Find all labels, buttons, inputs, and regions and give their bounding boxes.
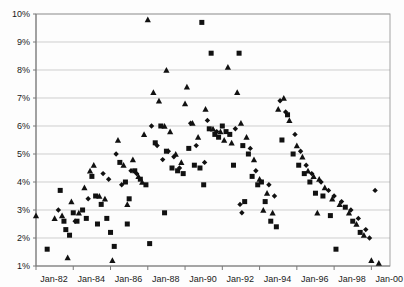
marker-square (104, 216, 109, 221)
marker-square (199, 20, 204, 25)
y-axis-label-8: 8% (17, 65, 30, 75)
x-axis-label-1990: Jan-90 (189, 274, 217, 284)
marker-square (170, 166, 175, 171)
marker-square (117, 160, 122, 165)
marker-square (263, 199, 268, 204)
marker-square (123, 180, 128, 185)
marker-square (242, 199, 247, 204)
marker-square (274, 224, 279, 229)
marker-square (186, 146, 191, 151)
y-axis-label-9: 9% (17, 37, 30, 47)
marker-square (45, 247, 50, 252)
y-axis-label-7: 7% (17, 93, 30, 103)
marker-square (240, 143, 245, 148)
marker-square (147, 241, 152, 246)
y-axis-label-2: 2% (17, 233, 30, 243)
marker-square (350, 219, 355, 224)
marker-square (95, 222, 100, 227)
marker-square (63, 227, 68, 232)
marker-square (89, 174, 94, 179)
chart-canvas: 10%9%8%7%6%5%4%3%2%1% Jan-82Jan-84Jan-86… (0, 0, 404, 287)
marker-square (197, 166, 202, 171)
marker-square (125, 222, 130, 227)
marker-square (231, 163, 236, 168)
marker-square (80, 208, 85, 213)
marker-square (201, 182, 206, 187)
marker-square (250, 174, 255, 179)
marker-square (71, 210, 76, 215)
y-axis-label-5: 5% (17, 149, 30, 159)
x-axis-label-1998: Jan-98 (338, 274, 366, 284)
marker-square (84, 216, 89, 221)
marker-square (127, 196, 132, 201)
y-axis-label-6: 6% (17, 121, 30, 131)
x-axis-label-1996: Jan-96 (301, 274, 329, 284)
marker-square (328, 213, 333, 218)
marker-square (237, 51, 242, 56)
marker-square (192, 163, 197, 168)
x-axis-label-1994: Jan-94 (264, 274, 292, 284)
chart-background (0, 0, 404, 287)
marker-square (291, 152, 296, 157)
x-axis-label-1986: Jan-86 (115, 274, 143, 284)
marker-square (162, 210, 167, 215)
marker-square (181, 171, 186, 176)
scatter-chart: 10%9%8%7%6%5%4%3%2%1% Jan-82Jan-84Jan-86… (0, 0, 404, 287)
marker-square (108, 230, 113, 235)
marker-square (343, 205, 348, 210)
marker-square (58, 188, 63, 193)
x-axis-label-1984: Jan-84 (77, 274, 105, 284)
marker-square (216, 135, 221, 140)
marker-square (67, 233, 72, 238)
x-axis-label-1982: Jan-82 (40, 274, 68, 284)
marker-square (333, 247, 338, 252)
marker-square (358, 230, 363, 235)
y-axis-label-10: 10% (12, 9, 30, 19)
marker-square (320, 194, 325, 199)
x-axis-label-2000: Jan-00 (376, 274, 404, 284)
y-axis-label-3: 3% (17, 205, 30, 215)
marker-square (246, 152, 251, 157)
marker-square (268, 219, 273, 224)
marker-square (227, 132, 232, 137)
marker-square (61, 219, 66, 224)
marker-square (112, 244, 117, 249)
marker-square (296, 163, 301, 168)
marker-square (279, 138, 284, 143)
x-axis-label-1992: Jan-92 (227, 274, 255, 284)
y-axis-label-1: 1% (17, 261, 30, 271)
marker-square (220, 124, 225, 129)
x-axis-label-1988: Jan-88 (152, 274, 180, 284)
marker-square (99, 202, 104, 207)
marker-square (307, 180, 312, 185)
marker-square (209, 51, 214, 56)
y-axis-label-4: 4% (17, 177, 30, 187)
marker-square (313, 191, 318, 196)
